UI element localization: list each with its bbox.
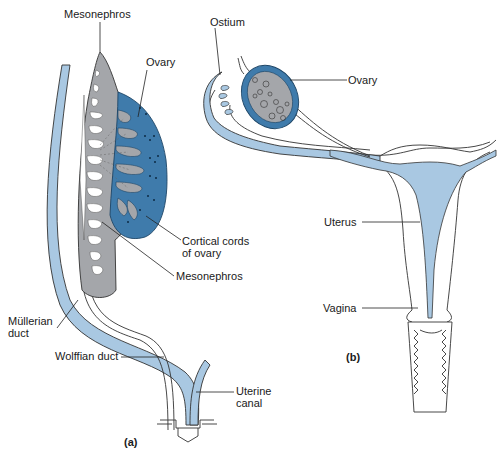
fimbriae — [219, 85, 233, 114]
caption-b: (b) — [346, 351, 360, 363]
label-ovary-b: Ovary — [348, 74, 378, 86]
label-mesonephros-bottom: Mesonephros — [176, 270, 243, 282]
label-vagina: Vagina — [323, 302, 357, 314]
label-mullerian-duct: Müllerian — [8, 315, 53, 327]
label-cortical-cords: Cortical cords — [182, 235, 250, 247]
label-uterus: Uterus — [324, 216, 357, 228]
reproductive-development-diagram: Mesonephros Ovary Cortical cords of ovar… — [0, 0, 497, 449]
label-ostium: Ostium — [210, 16, 245, 28]
label-cortical-cords-2: of ovary — [182, 247, 222, 259]
vagina — [408, 322, 452, 412]
caption-a: (a) — [124, 436, 138, 448]
panel-a: Mesonephros Ovary Cortical cords of ovar… — [8, 8, 271, 448]
label-mesonephros-top: Mesonephros — [64, 8, 131, 20]
uterine-canal-right-branch — [190, 360, 210, 425]
label-mullerian-duct-2: duct — [8, 327, 29, 339]
label-uterine-canal-2: canal — [236, 397, 262, 409]
label-uterine-canal: Uterine — [236, 385, 271, 397]
panel-b: Ostium Ovary Uterus Vagina (b) — [204, 16, 496, 412]
uterus-lumen — [330, 150, 496, 318]
label-wolffian-duct: Wolffian duct — [55, 350, 118, 362]
label-ovary-a: Ovary — [146, 56, 176, 68]
